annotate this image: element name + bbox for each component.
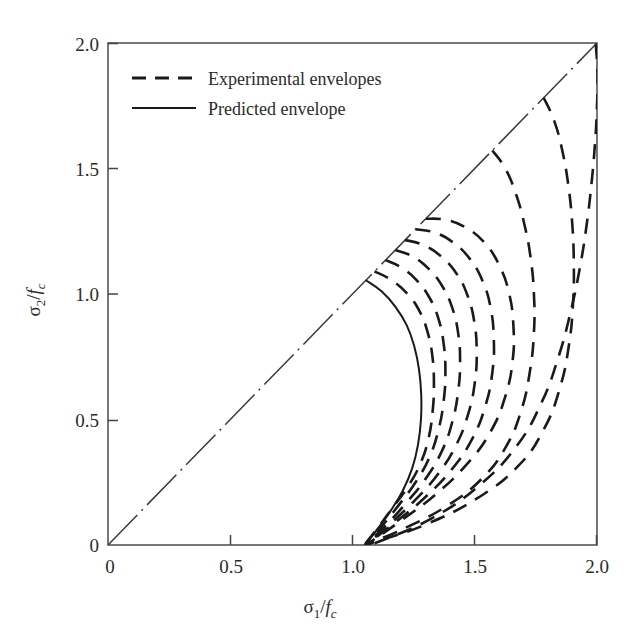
chart-page: 0 0.5 1.0 1.5 2.0 0 0.5 1.0 1.5 2.0 σ1/f… xyxy=(0,0,636,638)
ytick-label-1.0: 1.0 xyxy=(75,284,99,305)
xtick-label-1.0: 1.0 xyxy=(341,556,365,577)
y-title-f-sub: c xyxy=(33,283,48,289)
xtick-label-1.5: 1.5 xyxy=(463,556,487,577)
xtick-label-0.5: 0.5 xyxy=(219,556,243,577)
ytick-label-0: 0 xyxy=(90,535,100,556)
ytick-label-0.5: 0.5 xyxy=(75,410,99,431)
ytick-label-2.0: 2.0 xyxy=(75,34,99,55)
x-title-sigma: σ xyxy=(303,596,313,617)
x-title-f-sub: c xyxy=(331,606,337,621)
ytick-label-1.5: 1.5 xyxy=(75,159,99,180)
legend-label-experimental: Experimental envelopes xyxy=(208,69,381,89)
stress-envelope-chart: 0 0.5 1.0 1.5 2.0 0 0.5 1.0 1.5 2.0 σ1/f… xyxy=(0,0,636,638)
xtick-label-0: 0 xyxy=(105,556,115,577)
legend-label-predicted: Predicted envelope xyxy=(208,99,345,119)
xtick-label-2.0: 2.0 xyxy=(585,556,609,577)
y-title-sigma: σ xyxy=(23,306,44,316)
